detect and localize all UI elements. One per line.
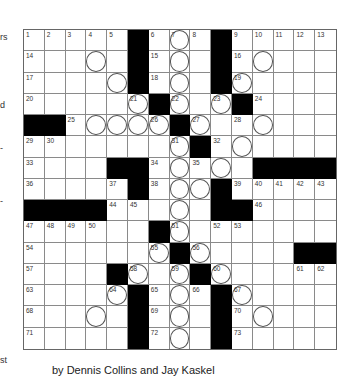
grid-cell[interactable] bbox=[45, 306, 66, 327]
grid-cell[interactable]: 19 bbox=[232, 73, 253, 94]
grid-cell[interactable] bbox=[274, 328, 295, 349]
grid-cell[interactable] bbox=[149, 264, 170, 285]
grid-cell[interactable] bbox=[232, 243, 253, 264]
grid-cell[interactable]: 55 bbox=[149, 243, 170, 264]
grid-cell[interactable] bbox=[66, 73, 87, 94]
grid-cell[interactable]: 62 bbox=[315, 264, 336, 285]
grid-cell[interactable]: 32 bbox=[211, 136, 232, 157]
grid-cell[interactable] bbox=[253, 115, 274, 136]
grid-cell[interactable] bbox=[253, 306, 274, 327]
grid-cell[interactable] bbox=[253, 285, 274, 306]
grid-cell[interactable]: 42 bbox=[294, 179, 315, 200]
grid-cell[interactable] bbox=[294, 328, 315, 349]
grid-cell[interactable] bbox=[294, 73, 315, 94]
grid-cell[interactable]: 5 bbox=[107, 30, 128, 51]
grid-cell[interactable]: 70 bbox=[232, 306, 253, 327]
grid-cell[interactable]: 65 bbox=[149, 285, 170, 306]
grid-cell[interactable] bbox=[315, 115, 336, 136]
grid-cell[interactable]: 29 bbox=[24, 136, 45, 157]
grid-cell[interactable] bbox=[66, 285, 87, 306]
grid-cell[interactable]: 63 bbox=[24, 285, 45, 306]
grid-cell[interactable] bbox=[86, 179, 107, 200]
grid-cell[interactable] bbox=[274, 243, 295, 264]
grid-cell[interactable]: 35 bbox=[190, 158, 211, 179]
grid-cell[interactable] bbox=[170, 51, 191, 72]
grid-cell[interactable] bbox=[274, 73, 295, 94]
grid-cell[interactable]: 59 bbox=[170, 264, 191, 285]
grid-cell[interactable] bbox=[170, 73, 191, 94]
grid-cell[interactable] bbox=[315, 306, 336, 327]
grid-cell[interactable]: 33 bbox=[24, 158, 45, 179]
grid-cell[interactable]: 30 bbox=[45, 136, 66, 157]
grid-cell[interactable] bbox=[274, 221, 295, 242]
grid-cell[interactable]: 41 bbox=[274, 179, 295, 200]
grid-cell[interactable] bbox=[107, 243, 128, 264]
grid-cell[interactable] bbox=[45, 94, 66, 115]
grid-cell[interactable]: 23 bbox=[211, 94, 232, 115]
grid-cell[interactable] bbox=[66, 306, 87, 327]
grid-cell[interactable]: 26 bbox=[149, 115, 170, 136]
grid-cell[interactable] bbox=[128, 115, 149, 136]
grid-cell[interactable] bbox=[274, 264, 295, 285]
grid-cell[interactable] bbox=[190, 306, 211, 327]
grid-cell[interactable] bbox=[66, 51, 87, 72]
grid-cell[interactable]: 52 bbox=[211, 221, 232, 242]
grid-cell[interactable] bbox=[211, 158, 232, 179]
grid-cell[interactable] bbox=[274, 51, 295, 72]
grid-cell[interactable]: 54 bbox=[24, 243, 45, 264]
grid-cell[interactable]: 24 bbox=[253, 94, 274, 115]
grid-cell[interactable]: 15 bbox=[149, 51, 170, 72]
grid-cell[interactable]: 66 bbox=[190, 285, 211, 306]
grid-cell[interactable] bbox=[45, 243, 66, 264]
grid-cell[interactable] bbox=[274, 94, 295, 115]
grid-cell[interactable] bbox=[86, 51, 107, 72]
grid-cell[interactable] bbox=[211, 115, 232, 136]
grid-cell[interactable]: 46 bbox=[253, 200, 274, 221]
grid-cell[interactable] bbox=[274, 200, 295, 221]
grid-cell[interactable] bbox=[86, 136, 107, 157]
grid-cell[interactable] bbox=[315, 221, 336, 242]
grid-cell[interactable]: 10 bbox=[253, 30, 274, 51]
grid-cell[interactable]: 71 bbox=[24, 328, 45, 349]
grid-cell[interactable] bbox=[128, 136, 149, 157]
grid-cell[interactable] bbox=[294, 306, 315, 327]
grid-cell[interactable] bbox=[107, 328, 128, 349]
grid-cell[interactable]: 73 bbox=[232, 328, 253, 349]
grid-cell[interactable] bbox=[274, 136, 295, 157]
grid-cell[interactable] bbox=[45, 51, 66, 72]
grid-cell[interactable] bbox=[149, 200, 170, 221]
grid-cell[interactable]: 37 bbox=[107, 179, 128, 200]
grid-cell[interactable]: 9 bbox=[232, 30, 253, 51]
grid-cell[interactable] bbox=[66, 136, 87, 157]
grid-cell[interactable] bbox=[253, 221, 274, 242]
grid-cell[interactable] bbox=[274, 306, 295, 327]
grid-cell[interactable] bbox=[86, 328, 107, 349]
grid-cell[interactable] bbox=[315, 94, 336, 115]
grid-cell[interactable] bbox=[294, 221, 315, 242]
grid-cell[interactable] bbox=[274, 285, 295, 306]
grid-cell[interactable] bbox=[190, 179, 211, 200]
grid-cell[interactable] bbox=[211, 243, 232, 264]
grid-cell[interactable]: 13 bbox=[315, 30, 336, 51]
grid-cell[interactable]: 8 bbox=[190, 30, 211, 51]
grid-cell[interactable]: 36 bbox=[24, 179, 45, 200]
grid-cell[interactable]: 16 bbox=[232, 51, 253, 72]
grid-cell[interactable] bbox=[170, 179, 191, 200]
grid-cell[interactable]: 49 bbox=[66, 221, 87, 242]
grid-cell[interactable]: 12 bbox=[294, 30, 315, 51]
grid-cell[interactable]: 22 bbox=[170, 94, 191, 115]
grid-cell[interactable] bbox=[315, 285, 336, 306]
grid-cell[interactable]: 28 bbox=[232, 115, 253, 136]
grid-cell[interactable]: 68 bbox=[24, 306, 45, 327]
grid-cell[interactable] bbox=[170, 158, 191, 179]
grid-cell[interactable]: 7 bbox=[170, 30, 191, 51]
grid-cell[interactable]: 61 bbox=[294, 264, 315, 285]
grid-cell[interactable] bbox=[45, 179, 66, 200]
grid-cell[interactable] bbox=[232, 158, 253, 179]
grid-cell[interactable] bbox=[190, 51, 211, 72]
grid-cell[interactable] bbox=[190, 73, 211, 94]
grid-cell[interactable]: 27 bbox=[190, 115, 211, 136]
grid-cell[interactable] bbox=[232, 136, 253, 157]
grid-cell[interactable] bbox=[66, 243, 87, 264]
grid-cell[interactable]: 31 bbox=[170, 136, 191, 157]
